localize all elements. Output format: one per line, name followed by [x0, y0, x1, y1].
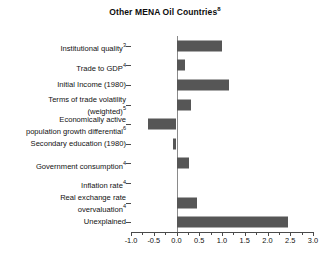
x-axis-minor-tick — [279, 232, 280, 235]
y-label-line: Institutional quality3 — [60, 44, 126, 53]
bar-row — [131, 212, 313, 232]
x-axis-minor-tick — [165, 232, 166, 235]
bar — [177, 40, 223, 51]
y-label-line: overvaluation4 — [78, 205, 126, 214]
x-axis-tick-label: 3.0 — [301, 236, 325, 245]
x-axis-tick-label: 1.5 — [233, 236, 257, 245]
y-label-line: Economically active — [59, 115, 126, 124]
y-label-line: population growth differential6 — [26, 127, 126, 136]
bar — [177, 217, 288, 228]
x-axis-minor-tick — [256, 232, 257, 235]
y-axis-label: Secondary education (1980) — [0, 140, 126, 149]
x-axis-tick-label: 0.0 — [165, 236, 189, 245]
y-label-superscript: 6 — [123, 125, 126, 131]
bar — [177, 158, 189, 169]
x-axis-tick-label: 0.5 — [187, 236, 211, 245]
bar — [173, 138, 177, 149]
x-axis-minor-tick — [142, 232, 143, 235]
x-axis-minor-tick — [233, 232, 234, 235]
y-label-superscript: 5 — [123, 106, 126, 112]
x-axis-minor-tick — [302, 232, 303, 235]
y-label-line: Trade to GDP4 — [76, 64, 126, 73]
bar-row — [131, 193, 313, 213]
y-label-line: Initial Income (1980) — [57, 80, 126, 89]
x-axis-minor-tick — [188, 232, 189, 235]
bar-row — [131, 154, 313, 174]
chart-container: Other MENA Oil Countries8 Institutional … — [0, 0, 330, 267]
bar-row — [131, 114, 313, 134]
y-label-line: Government consumption4 — [36, 162, 126, 171]
y-axis-labels: Institutional quality3Trade to GDP4Initi… — [0, 36, 126, 232]
x-axis-minor-tick — [211, 232, 212, 235]
bar-row — [131, 56, 313, 76]
bar — [148, 119, 176, 130]
bar-row — [131, 75, 313, 95]
y-label-superscript: 4 — [123, 204, 126, 210]
y-label-line: Inflation rate4 — [81, 181, 126, 190]
x-axis-tick-label: -0.5 — [142, 236, 166, 245]
bar-row — [131, 173, 313, 193]
y-axis-label: Institutional quality3 — [0, 42, 126, 54]
x-axis-tick-label: 2.0 — [256, 236, 280, 245]
x-axis-tick-label: -1.0 — [119, 236, 143, 245]
bar — [177, 99, 192, 110]
bar-row — [131, 95, 313, 115]
chart-title: Other MENA Oil Countries8 — [0, 6, 330, 17]
y-axis-label: Initial Income (1980) — [0, 81, 126, 90]
y-label-line: Terms of trade volatility — [48, 95, 126, 104]
chart-title-superscript: 8 — [217, 6, 220, 12]
y-axis-label: Trade to GDP4 — [0, 61, 126, 73]
bar-row — [131, 134, 313, 154]
y-axis-label: Government consumption4 — [0, 159, 126, 171]
y-axis-label: Real exchange rateovervaluation4 — [0, 194, 126, 215]
x-axis-tick-label: 2.5 — [278, 236, 302, 245]
y-label-line: Unexplained — [84, 217, 126, 226]
y-label-line: Real exchange rate — [60, 193, 126, 202]
bar — [177, 79, 229, 90]
bar-row — [131, 36, 313, 56]
y-axis-label: Unexplained — [0, 218, 126, 227]
y-axis-label: Economically activepopulation growth dif… — [0, 116, 126, 137]
x-axis-tick-label: 1.0 — [210, 236, 234, 245]
bar — [177, 197, 197, 208]
y-axis-label: Inflation rate4 — [0, 179, 126, 191]
y-label-line: Secondary education (1980) — [31, 139, 126, 148]
chart-title-text: Other MENA Oil Countries — [109, 7, 217, 17]
plot-area — [131, 36, 313, 232]
bar — [177, 60, 185, 71]
